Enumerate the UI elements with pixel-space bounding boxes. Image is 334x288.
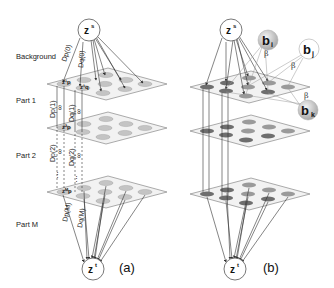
infinity-symbol: ∞: [56, 105, 63, 110]
layer-label-part-2: Part 2: [16, 151, 36, 160]
infinity-symbol: ∞: [75, 153, 82, 158]
node-target-b: z t: [224, 258, 246, 280]
svg-text:j: j: [311, 50, 314, 58]
edge-label-dpm: Dp(M): [61, 202, 73, 223]
bias-node-i: b i: [258, 30, 278, 50]
beta-label-i: β: [264, 49, 269, 58]
svg-text:z: z: [226, 25, 231, 36]
panel-a: Background Part 1 Part 2 Part M: [16, 19, 167, 280]
svg-text:i: i: [271, 41, 273, 48]
layer-label-part-m: Part M: [16, 220, 38, 229]
beta-label-k: β: [304, 91, 309, 100]
plane-b-part-m: [190, 178, 310, 210]
svg-text:t: t: [237, 262, 239, 268]
svg-text:b: b: [262, 33, 270, 48]
plane-b-part-2: [190, 115, 310, 147]
bias-node-j: b j: [299, 39, 319, 59]
svg-text:b: b: [303, 42, 311, 57]
node-zp1: z¹p: [62, 79, 71, 85]
panel-b: β β β b i b j b k: [190, 19, 319, 280]
svg-text:z: z: [84, 25, 89, 36]
svg-text:z: z: [88, 264, 93, 275]
vertical-edges-b: [203, 89, 228, 196]
ellipsis: ⋮: [73, 175, 80, 182]
svg-text:b: b: [301, 103, 309, 118]
node-source-b: z s: [220, 19, 242, 41]
node-zq1: z¹q: [80, 84, 89, 90]
plane-b-part-1: [190, 71, 310, 103]
beta-label-j: β: [291, 61, 296, 70]
layer-label-background: Background: [16, 52, 56, 61]
node-source-a: z s: [78, 19, 100, 41]
svg-text:t: t: [95, 262, 97, 268]
layer-label-part-1: Part 1: [16, 96, 36, 105]
svg-text:k: k: [311, 111, 315, 118]
bias-node-k: b k: [298, 100, 318, 120]
svg-text:z: z: [230, 264, 235, 275]
node-zp2: z²p: [62, 124, 71, 130]
node-target-a: z t: [82, 258, 104, 280]
infinity-symbol: ∞: [75, 109, 82, 114]
ellipsis: ⋮: [54, 171, 61, 178]
edge-label-dq0: Dq(0): [77, 50, 86, 68]
panel-label-a: (a): [119, 260, 135, 275]
infinity-symbol: ∞: [56, 149, 63, 154]
panel-label-b: (b): [263, 260, 279, 275]
diagram-canvas: Background Part 1 Part 2 Part M: [0, 0, 334, 288]
node-zpm: zᴹp: [62, 188, 72, 194]
